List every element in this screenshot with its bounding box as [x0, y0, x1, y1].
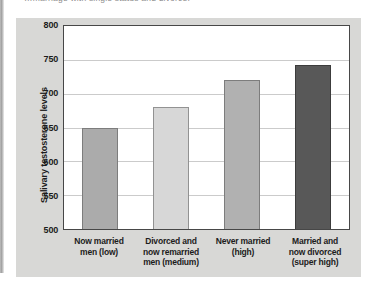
x-category-label-line: Married and [289, 236, 341, 247]
y-axis-ticks: 500550600650700750800 [0, 25, 58, 230]
bar-4 [295, 65, 331, 229]
bar-3 [224, 80, 260, 229]
x-axis-labels: Now marriedmen (low)Divorced andnow rema… [63, 236, 350, 272]
x-category-label-line: (super high) [289, 257, 341, 268]
y-tick-label: 800 [0, 20, 58, 30]
y-tick-label: 600 [0, 157, 58, 167]
x-category-label-line: Divorced and [143, 236, 199, 247]
y-tick-label: 700 [0, 88, 58, 98]
y-tick-label: 550 [0, 191, 58, 201]
gridline [64, 60, 349, 61]
caption-fragment: …marriage with single status and divorce… [24, 0, 190, 4]
x-category-label: Divorced andnow remarriedmen (medium) [143, 236, 199, 268]
x-category-label-line: (high) [216, 247, 271, 258]
bar-2 [153, 107, 189, 229]
x-category-label-line: men (medium) [143, 257, 199, 268]
x-category-label: Never married(high) [216, 236, 271, 257]
figure-panel: Salivary testosterone levels 50055060065… [16, 18, 361, 277]
x-category-label: Now marriedmen (low) [74, 236, 123, 257]
page: …marriage with single status and divorce… [0, 0, 369, 287]
y-tick-label: 650 [0, 123, 58, 133]
y-tick-label: 750 [0, 54, 58, 64]
x-category-label: Married andnow divorced(super high) [289, 236, 341, 268]
y-tick-label: 500 [0, 225, 58, 235]
plot-area [63, 25, 350, 230]
x-category-label-line: men (low) [74, 247, 123, 258]
x-category-label-line: Never married [216, 236, 271, 247]
bar-1 [82, 128, 118, 230]
x-category-label-line: now remarried [143, 247, 199, 258]
x-category-label-line: now divorced [289, 247, 341, 258]
x-category-label-line: Now married [74, 236, 123, 247]
